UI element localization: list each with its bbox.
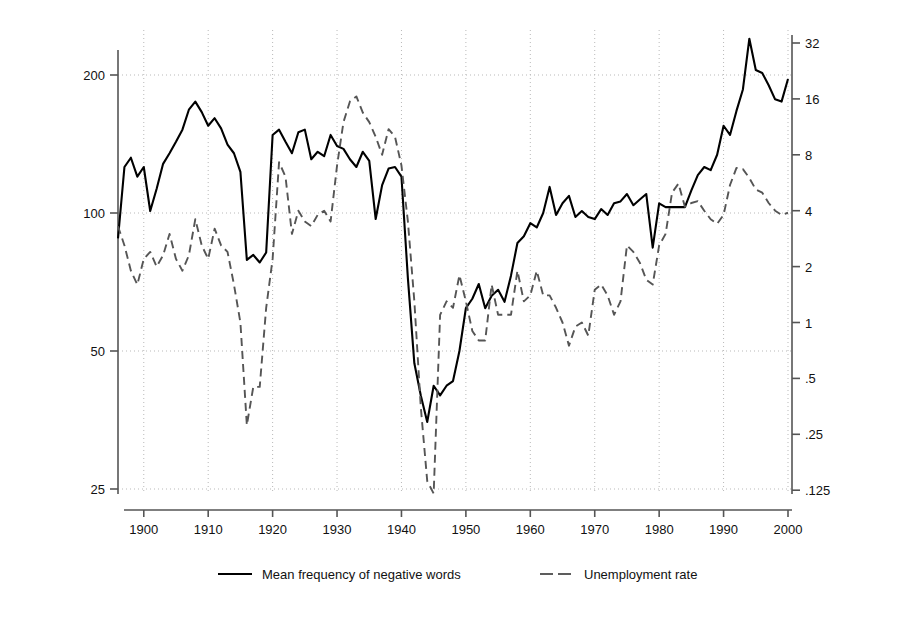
right-axis-tick-label: 1 xyxy=(805,316,812,331)
legend-label: Unemployment rate xyxy=(584,567,697,582)
x-axis-tick-label: 2000 xyxy=(774,522,803,537)
right-axis-tick-label: 4 xyxy=(805,204,812,219)
right-axis-tick-label: 16 xyxy=(805,92,819,107)
right-axis-tick-label: 2 xyxy=(805,260,812,275)
right-axis-tick-label: 8 xyxy=(805,148,812,163)
x-axis-tick-label: 1990 xyxy=(709,522,738,537)
x-axis-tick-label: 1900 xyxy=(129,522,158,537)
left-axis-tick-label: 50 xyxy=(91,344,105,359)
x-axis-tick-label: 1920 xyxy=(258,522,287,537)
right-axis-tick-label: .5 xyxy=(805,371,816,386)
right-axis-tick-label: .125 xyxy=(805,483,830,498)
right-axis-tick-label: .25 xyxy=(805,427,823,442)
x-axis-tick-label: 1970 xyxy=(580,522,609,537)
x-axis-tick-label: 1930 xyxy=(323,522,352,537)
x-axis-tick-label: 1910 xyxy=(194,522,223,537)
x-axis-tick-label: 1940 xyxy=(387,522,416,537)
left-axis-tick-label: 25 xyxy=(91,482,105,497)
x-axis-tick-label: 1960 xyxy=(516,522,545,537)
left-axis-tick-label: 200 xyxy=(83,68,105,83)
x-axis-tick-label: 1980 xyxy=(645,522,674,537)
chart-figure: 2550100200 .125.25.512481632 19001910192… xyxy=(0,0,900,618)
right-axis-tick-label: 32 xyxy=(805,36,819,51)
x-axis-tick-label: 1950 xyxy=(451,522,480,537)
legend-label: Mean frequency of negative words xyxy=(262,567,461,582)
chart-legend: Mean frequency of negative wordsUnemploy… xyxy=(218,567,697,582)
left-axis-tick-label: 100 xyxy=(83,206,105,221)
